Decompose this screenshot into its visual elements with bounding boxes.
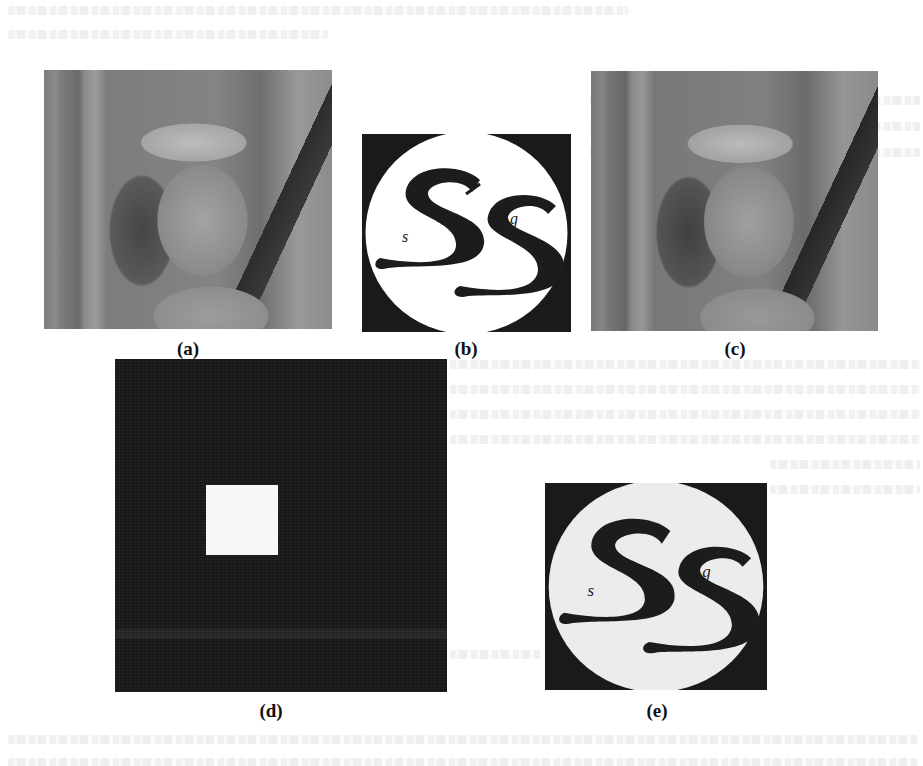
ss-logo-icon: s g	[362, 134, 571, 332]
watermarked-image	[591, 71, 878, 331]
caption-c: (c)	[724, 338, 745, 360]
caption-a: (a)	[177, 338, 199, 360]
noise-texture	[115, 359, 447, 692]
svg-text:g: g	[510, 210, 518, 228]
white-square	[206, 485, 278, 555]
svg-text:s: s	[587, 581, 594, 600]
caption-e: (e)	[646, 700, 667, 722]
extracted-watermark-logo: s g	[545, 483, 767, 690]
original-watermark-logo: s g	[362, 134, 571, 332]
svg-text:g: g	[702, 562, 711, 581]
spatial-difference-image	[115, 359, 447, 692]
svg-text:s: s	[402, 228, 408, 245]
horizontal-band	[115, 629, 447, 639]
original-host-image	[44, 70, 332, 329]
ss-logo-extracted-icon: s g	[545, 483, 767, 690]
caption-b: (b)	[454, 338, 477, 360]
caption-d: (d)	[259, 700, 282, 722]
